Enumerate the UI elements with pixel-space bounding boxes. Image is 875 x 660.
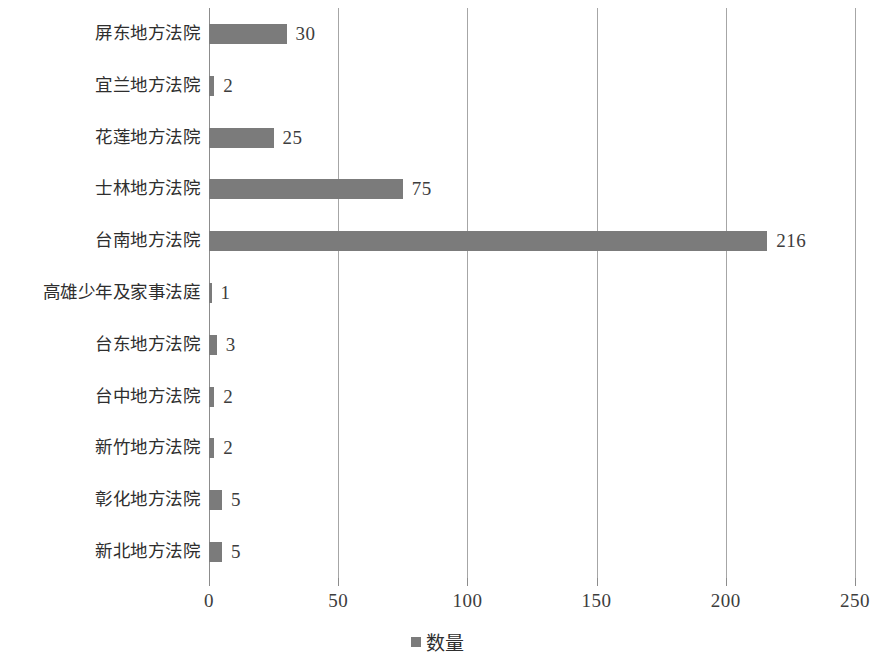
- bar-row: 1: [209, 283, 855, 303]
- x-axis-tick-label: 200: [711, 590, 741, 612]
- legend-label: 数量: [426, 628, 465, 655]
- y-axis-label: 新北地方法院: [0, 543, 200, 561]
- x-axis-ticks: [209, 578, 855, 588]
- x-axis-tick-label: 250: [840, 590, 870, 612]
- x-axis-tick-label: 0: [204, 590, 214, 612]
- bar: [209, 179, 403, 199]
- bar-row: 5: [209, 490, 855, 510]
- bar-value-label: 3: [226, 334, 236, 356]
- bar-value-label: 5: [231, 489, 241, 511]
- x-axis-tick-label: 150: [582, 590, 612, 612]
- x-axis-tick: [467, 578, 468, 586]
- x-axis-tick: [338, 578, 339, 586]
- y-axis-label: 宜兰地方法院: [0, 77, 200, 95]
- x-axis-tick: [855, 578, 856, 586]
- bar-row: 2: [209, 438, 855, 458]
- bar: [209, 24, 287, 44]
- bar-row: 2: [209, 387, 855, 407]
- bar: [209, 387, 214, 407]
- y-axis-label: 高雄少年及家事法庭: [0, 284, 200, 302]
- bar-value-label: 75: [412, 178, 432, 200]
- x-axis-tick-label: 50: [328, 590, 348, 612]
- y-axis-label: 花莲地方法院: [0, 129, 200, 147]
- x-axis-tick: [726, 578, 727, 586]
- bar-value-label: 25: [283, 127, 303, 149]
- bar: [209, 335, 217, 355]
- gridline-250: [855, 8, 856, 578]
- bar-row: 5: [209, 542, 855, 562]
- x-axis-tick: [597, 578, 598, 586]
- bar-row: 75: [209, 179, 855, 199]
- legend-swatch-icon: [411, 637, 421, 647]
- bar: [209, 438, 214, 458]
- bar: [209, 128, 274, 148]
- y-axis-label: 新竹地方法院: [0, 440, 200, 458]
- bar: [209, 76, 214, 96]
- y-axis-label: 台东地方法院: [0, 336, 200, 354]
- y-axis-category-labels: 屏东地方法院宜兰地方法院花莲地方法院士林地方法院台南地方法院高雄少年及家事法庭台…: [0, 8, 200, 578]
- x-axis-tick-labels: 050100150200250: [209, 590, 855, 616]
- bar-value-label: 216: [776, 230, 806, 252]
- bar-value-label: 30: [296, 23, 316, 45]
- bar-row: 2: [209, 76, 855, 96]
- bar: [209, 490, 222, 510]
- y-axis-label: 台南地方法院: [0, 232, 200, 250]
- legend: 数量: [0, 628, 875, 655]
- bar-chart: 屏东地方法院宜兰地方法院花莲地方法院士林地方法院台南地方法院高雄少年及家事法庭台…: [0, 0, 875, 660]
- bar: [209, 542, 222, 562]
- y-axis-label: 台中地方法院: [0, 388, 200, 406]
- bar-row: 216: [209, 231, 855, 251]
- bar-row: 30: [209, 24, 855, 44]
- bar: [209, 283, 212, 303]
- bar-value-label: 2: [223, 437, 233, 459]
- x-axis-tick-label: 100: [452, 590, 482, 612]
- y-axis-label: 士林地方法院: [0, 181, 200, 199]
- bar: [209, 231, 767, 251]
- plot-area: 3022575216132255: [209, 8, 855, 578]
- bar-row: 25: [209, 128, 855, 148]
- bar-value-label: 5: [231, 541, 241, 563]
- y-axis-label: 彰化地方法院: [0, 492, 200, 510]
- bar-value-label: 2: [223, 386, 233, 408]
- y-axis-label: 屏东地方法院: [0, 25, 200, 43]
- x-axis-tick: [209, 578, 210, 586]
- bar-value-label: 2: [223, 75, 233, 97]
- bar-value-label: 1: [221, 282, 231, 304]
- bar-row: 3: [209, 335, 855, 355]
